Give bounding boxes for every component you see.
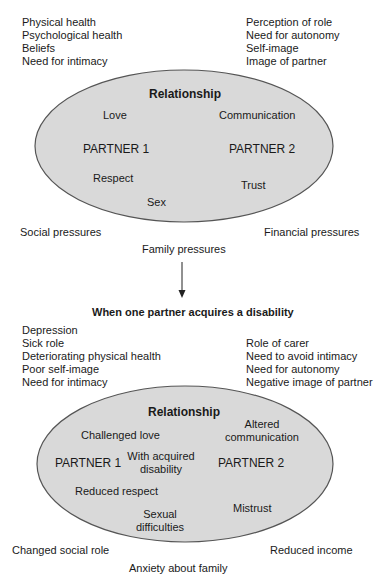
need-item: Need for autonomy bbox=[246, 29, 340, 42]
family-pressures-label: Family pressures bbox=[142, 243, 226, 255]
need-item: Beliefs bbox=[22, 42, 122, 55]
need-item: Perception of role bbox=[246, 16, 340, 29]
relationship-title: Relationship bbox=[149, 87, 221, 101]
change-item: Poor self-image bbox=[22, 363, 161, 376]
need-item: Image of partner bbox=[246, 55, 340, 68]
sexual-difficulties-label: Sexual difficulties bbox=[125, 508, 195, 534]
anxiety-about-family-label: Anxiety about family bbox=[129, 562, 227, 574]
change-item: Deteriorating physical health bbox=[22, 350, 161, 363]
partner1-needs-list: Physical health Psychological health Bel… bbox=[22, 16, 122, 68]
change-item: Sick role bbox=[22, 337, 161, 350]
change-item: Depression bbox=[22, 324, 161, 337]
need-item: Psychological health bbox=[22, 29, 122, 42]
communication-label: Communication bbox=[219, 109, 295, 121]
challenged-love-label: Challenged love bbox=[81, 429, 160, 441]
change-item: Role of carer bbox=[246, 337, 373, 350]
reduced-income-label: Reduced income bbox=[270, 544, 353, 556]
change-item: Need for intimacy bbox=[22, 376, 161, 389]
partner2-needs-list: Perception of role Need for autonomy Sel… bbox=[246, 16, 340, 68]
need-item: Physical health bbox=[22, 16, 122, 29]
partner1-label: PARTNER 1 bbox=[83, 142, 149, 156]
partner1-label-after: PARTNER 1 bbox=[55, 456, 121, 470]
acquired-disability-label: With acquired disability bbox=[120, 450, 202, 476]
arrow-down-icon bbox=[179, 262, 186, 298]
sex-label: Sex bbox=[147, 196, 166, 208]
partner2-changes-list: Role of carer Need to avoid intimacy Nee… bbox=[246, 337, 373, 389]
altered-communication-label: Altered communication bbox=[222, 418, 302, 444]
mistrust-label: Mistrust bbox=[233, 502, 272, 514]
change-item: Negative image of partner bbox=[246, 376, 373, 389]
respect-label: Respect bbox=[93, 172, 133, 184]
disability-heading: When one partner acquires a disability bbox=[92, 306, 294, 318]
changed-social-role-label: Changed social role bbox=[12, 544, 109, 556]
love-label: Love bbox=[103, 109, 127, 121]
partner2-label: PARTNER 2 bbox=[229, 142, 295, 156]
social-pressures-label: Social pressures bbox=[20, 226, 101, 238]
need-item: Need for intimacy bbox=[22, 55, 122, 68]
partner2-label-after: PARTNER 2 bbox=[218, 456, 284, 470]
trust-label: Trust bbox=[241, 179, 266, 191]
financial-pressures-label: Financial pressures bbox=[264, 226, 359, 238]
change-item: Need to avoid intimacy bbox=[246, 350, 373, 363]
reduced-respect-label: Reduced respect bbox=[75, 485, 158, 497]
need-item: Self-image bbox=[246, 42, 340, 55]
relationship-title-after: Relationship bbox=[148, 405, 220, 419]
partner1-changes-list: Depression Sick role Deteriorating physi… bbox=[22, 324, 161, 389]
change-item: Need for autonomy bbox=[246, 363, 373, 376]
